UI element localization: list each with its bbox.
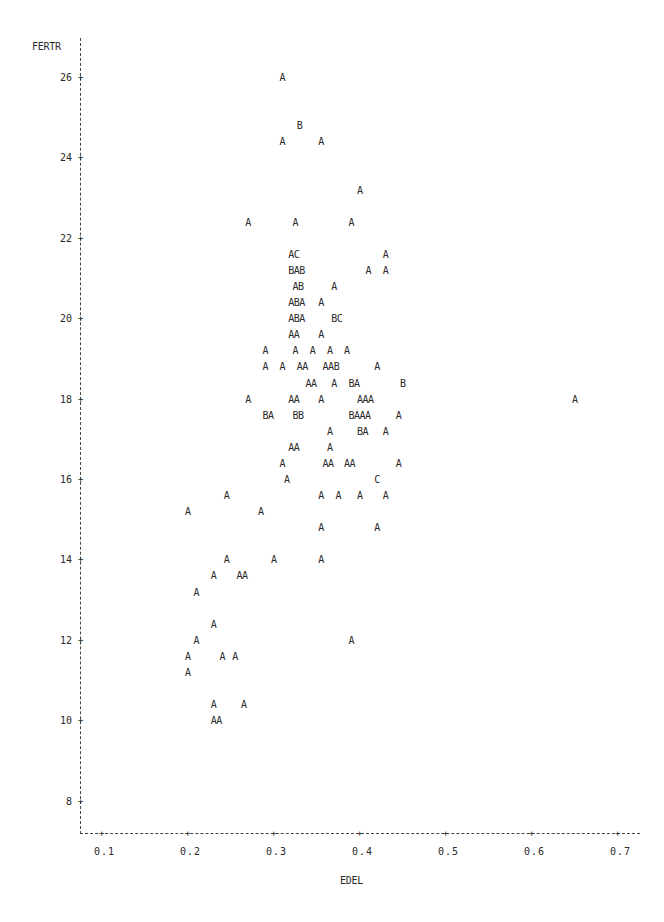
data-point: A [383,427,389,437]
data-point: A [194,636,200,646]
data-point: C [374,475,380,485]
scatter-plot: FERTR 8+10+12+14+16+18+20+22+24+26+ 0.1+… [0,0,664,922]
data-point: A [348,218,354,228]
data-point: AAA [357,395,374,405]
data-point: A [194,588,200,598]
x-tick-label: 0.4 [352,847,373,857]
data-point: A [211,571,217,581]
data-point: A [327,427,333,437]
data-point: A [327,443,333,453]
data-point: A [396,459,402,469]
data-point: AA [288,330,299,340]
data-point: A [383,491,389,501]
data-point: A [336,491,342,501]
data-point: A [310,346,316,356]
y-tick-label: 8 [42,797,72,807]
data-point: A [219,652,225,662]
data-point: AA [237,571,248,581]
x-tick-mark: + [185,829,190,838]
y-tick-label: 14 [42,555,72,565]
data-point: ABA [288,314,305,324]
y-tick-mark: + [78,234,83,243]
data-point: A [293,346,299,356]
data-point: A [348,636,354,646]
data-point: A [383,266,389,276]
data-point: A [245,395,251,405]
y-tick-mark: + [78,716,83,725]
x-axis-label: EDEL [340,876,363,886]
data-point: A [185,652,191,662]
data-point: A [262,362,268,372]
data-point: A [271,555,277,565]
x-tick-mark: + [529,829,534,838]
x-tick-label: 0.5 [438,847,459,857]
data-point: A [374,523,380,533]
data-point: A [357,186,363,196]
y-tick-mark: + [78,636,83,645]
data-point: A [374,362,380,372]
data-point: A [327,346,333,356]
y-tick-label: 26 [42,73,72,83]
y-tick-mark: + [78,555,83,564]
x-tick-label: 0.3 [266,847,287,857]
data-point: AA [288,395,299,405]
data-point: B [297,121,303,131]
x-tick-label: 0.2 [180,847,201,857]
y-tick-label: 12 [42,636,72,646]
data-point: A [318,330,324,340]
x-tick-label: 0.7 [610,847,631,857]
data-point: A [284,475,290,485]
data-point: AA [211,716,222,726]
y-tick-label: 20 [42,314,72,324]
data-point: A [357,491,363,501]
data-point: BAB [288,266,305,276]
x-tick-mark: + [99,829,104,838]
data-point: AA [305,379,316,389]
data-point: A [318,298,324,308]
data-point: AB [293,282,304,292]
data-point: A [232,652,238,662]
data-point: A [383,250,389,260]
data-point: A [280,137,286,147]
y-tick-label: 10 [42,716,72,726]
x-tick-mark: + [357,829,362,838]
x-tick-mark: + [271,829,276,838]
data-point: A [318,555,324,565]
data-point: A [331,379,337,389]
data-point: AC [288,250,299,260]
data-point: A [318,491,324,501]
y-tick-mark: + [78,73,83,82]
x-tick-mark: + [443,829,448,838]
data-point: ABA [288,298,305,308]
data-point: BA [262,411,273,421]
data-point: BA [348,379,359,389]
data-point: A [262,346,268,356]
data-point: A [224,491,230,501]
data-point: A [572,395,578,405]
x-tick-mark: + [615,829,620,838]
data-point: A [241,700,247,710]
data-point: AA [297,362,308,372]
data-point: A [185,507,191,517]
data-point: A [331,282,337,292]
data-point: BAAA [348,411,370,421]
data-point: A [211,620,217,630]
data-point: A [280,459,286,469]
x-tick-label: 0.1 [94,847,115,857]
data-point: A [293,218,299,228]
x-tick-label: 0.6 [524,847,545,857]
y-axis-label: FERTR [32,42,61,52]
y-tick-mark: + [78,797,83,806]
data-point: AA [344,459,355,469]
y-tick-label: 18 [42,395,72,405]
data-point: A [258,507,264,517]
data-point: A [245,218,251,228]
data-point: BB [293,411,304,421]
data-point: B [400,379,406,389]
y-tick-mark: + [78,314,83,323]
y-tick-label: 22 [42,234,72,244]
y-tick-mark: + [78,395,83,404]
y-tick-label: 24 [42,153,72,163]
data-point: A [211,700,217,710]
y-tick-mark: + [78,153,83,162]
